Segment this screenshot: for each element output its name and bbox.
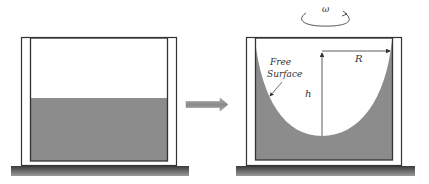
- height-label: h: [305, 88, 311, 99]
- rotating-fluid-diagram: ω Free Surface R h: [0, 0, 429, 184]
- radius-label: R: [354, 53, 363, 64]
- left-container: [11, 38, 189, 177]
- ground-base-right: [236, 166, 415, 176]
- free-surface-label-line2: Surface: [267, 69, 302, 79]
- right-arrow-icon: [186, 98, 228, 111]
- liquid-flat: [30, 98, 167, 161]
- free-surface-label-line1: Free: [269, 57, 291, 67]
- ground-base-left: [11, 166, 189, 176]
- omega-label: ω: [322, 4, 330, 14]
- right-container: [236, 11, 415, 176]
